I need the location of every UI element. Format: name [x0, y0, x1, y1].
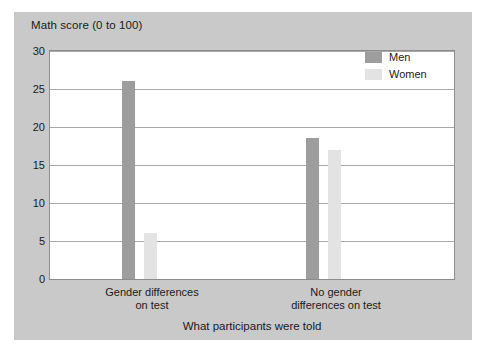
category-1-line-1: differences on test [276, 299, 396, 312]
y-tick-label-20: 20 [15, 121, 45, 133]
legend-item-men: Men [365, 51, 427, 63]
bar-men-group-0 [122, 81, 135, 279]
y-tick-label-10: 10 [15, 197, 45, 209]
y-tick-label-30: 30 [15, 45, 45, 57]
legend-swatch-men-icon [365, 52, 382, 63]
bar-men-group-1 [306, 138, 319, 279]
bar-women-group-0 [144, 233, 157, 279]
legend-label-men: Men [389, 51, 410, 63]
legend-label-women: Women [389, 68, 427, 80]
y-tick-label-15: 15 [15, 159, 45, 171]
y-axis-title: Math score (0 to 100) [31, 19, 142, 31]
y-tick-label-0: 0 [15, 273, 45, 285]
x-axis-category-label-0: Gender differences on test [92, 286, 212, 312]
y-tick-label-5: 5 [15, 235, 45, 247]
category-0-line-0: Gender differences [92, 286, 212, 299]
category-0-line-1: on test [92, 299, 212, 312]
legend-item-women: Women [365, 68, 427, 80]
legend-swatch-women-icon [365, 69, 382, 80]
bar-chart-figure: Math score (0 to 100) 302520151050 Men W… [0, 0, 489, 353]
y-axis-tick-labels: 302520151050 [15, 50, 45, 280]
bar-women-group-1 [328, 150, 341, 279]
bars-layer [50, 51, 454, 279]
x-axis-category-label-1: No gender differences on test [276, 286, 396, 312]
chart-legend: Men Women [365, 51, 427, 85]
category-1-line-0: No gender [276, 286, 396, 299]
y-tick-label-25: 25 [15, 83, 45, 95]
x-axis-title: What participants were told [49, 320, 455, 332]
